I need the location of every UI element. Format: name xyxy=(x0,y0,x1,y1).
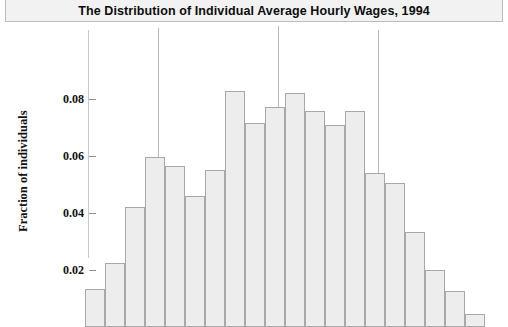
y-axis-label: Fraction of individuals xyxy=(16,110,31,232)
histogram-bar xyxy=(405,232,425,327)
y-tick-label: 0.08 xyxy=(63,92,84,107)
histogram-bar xyxy=(185,196,205,327)
y-axis-spine xyxy=(88,30,89,258)
histogram-bar xyxy=(385,183,405,327)
histogram-bar xyxy=(105,263,125,327)
y-tick-label: 0.04 xyxy=(63,206,84,221)
chart-title-bar: The Distribution of Individual Average H… xyxy=(5,0,503,22)
histogram-bar xyxy=(345,111,365,327)
y-axis-label-wrap: Fraction of individuals xyxy=(14,82,32,232)
y-tick-label: 0.06 xyxy=(63,149,84,164)
distribution-marker-line xyxy=(278,26,279,107)
distribution-marker-line xyxy=(158,28,159,157)
distribution-marker-line xyxy=(378,30,379,173)
histogram-bar xyxy=(465,314,485,327)
y-tick-label: 0.02 xyxy=(63,263,84,278)
histogram-bar xyxy=(165,166,185,327)
y-tick-mark xyxy=(89,213,96,214)
histogram-bar xyxy=(285,93,305,327)
histogram-bar xyxy=(425,270,445,327)
histogram-bar xyxy=(365,173,385,327)
y-tick-mark xyxy=(89,270,96,271)
histogram-bar xyxy=(125,207,145,327)
page-title: The Distribution of Individual Average H… xyxy=(78,4,430,18)
y-tick-mark xyxy=(89,156,96,157)
histogram-bar xyxy=(445,291,465,327)
histogram-bar xyxy=(205,170,225,327)
y-tick-mark xyxy=(89,99,96,100)
plot-area: 0.080.060.040.02 Fraction of individuals xyxy=(0,22,508,258)
histogram-bar xyxy=(305,111,325,327)
histogram-bar xyxy=(225,91,245,327)
histogram-bar xyxy=(145,157,165,327)
histogram-bar xyxy=(245,123,265,327)
histogram-bar xyxy=(265,107,285,327)
histogram-bar xyxy=(85,289,105,327)
histogram-bar xyxy=(325,125,345,327)
